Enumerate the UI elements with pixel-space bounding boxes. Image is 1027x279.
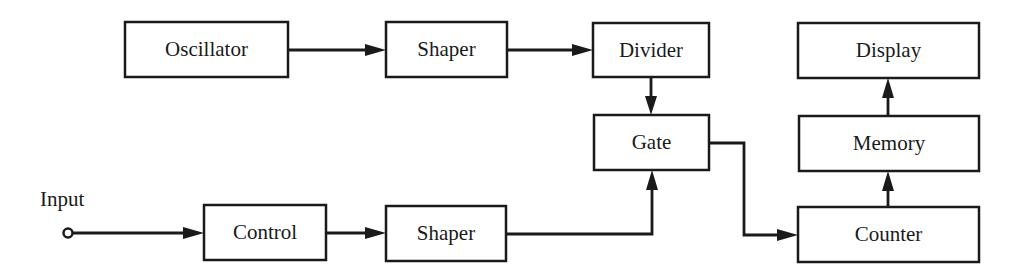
arrow-head-icon (183, 227, 204, 239)
wire-gate-counter (709, 143, 784, 235)
memory-label: Memory (799, 116, 979, 171)
shaper-top-label: Shaper (386, 22, 507, 77)
arrow-head-icon (882, 171, 894, 191)
arrow-head-icon (572, 44, 593, 56)
shaper-bottom-label: Shaper (386, 206, 506, 261)
arrow-head-icon (365, 44, 386, 56)
gate-label: Gate (594, 115, 709, 170)
divider-label: Divider (593, 23, 709, 77)
input-label: Input (40, 187, 84, 212)
input-terminal-icon (64, 229, 73, 238)
arrow-head-icon (365, 227, 386, 239)
arrow-head-icon (882, 78, 894, 98)
control-label: Control (204, 205, 326, 260)
wire-shaper-gate (506, 184, 652, 234)
display-label: Display (798, 23, 979, 78)
arrow-head-icon (777, 229, 798, 241)
arrow-head-icon (645, 96, 657, 115)
block-diagram: Oscillator Shaper Divider Display Gate M… (0, 0, 1027, 279)
arrow-head-icon (646, 170, 658, 190)
oscillator-label: Oscillator (125, 22, 288, 77)
counter-label: Counter (798, 207, 979, 262)
